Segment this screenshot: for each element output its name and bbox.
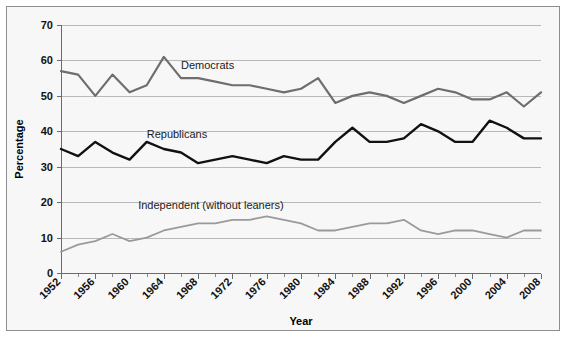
x-tick-label-1952: 1952	[37, 275, 63, 301]
y-tick-label-30: 30	[41, 161, 53, 173]
x-axis-title: Year	[289, 315, 313, 327]
series-line-0	[61, 57, 541, 107]
x-tick-label-1972: 1972	[208, 275, 234, 301]
series-line-1	[61, 121, 541, 164]
x-tick-label-1984: 1984	[311, 275, 337, 301]
y-tick-label-10: 10	[41, 232, 53, 244]
chart-plot-frame: 010203040506070 195219561960196419681972…	[6, 6, 560, 331]
series-label-1: Republicans	[147, 128, 208, 140]
x-tick-label-1976: 1976	[242, 275, 268, 301]
y-tick-label-70: 70	[41, 19, 53, 31]
gridlines	[61, 26, 541, 239]
x-tick-labels: 1952195619601964196819721976198019841988…	[37, 275, 543, 301]
x-tick-label-1988: 1988	[345, 275, 371, 301]
y-tick-label-50: 50	[41, 90, 53, 102]
series-line-2	[61, 216, 541, 251]
x-tick-label-1980: 1980	[277, 275, 303, 301]
series-lines	[61, 57, 541, 252]
y-tick-label-60: 60	[41, 54, 53, 66]
x-tick-label-1968: 1968	[174, 275, 200, 301]
y-tick-labels: 010203040506070	[41, 19, 53, 279]
x-tick-label-2008: 2008	[517, 275, 543, 301]
x-tick-label-2004: 2004	[482, 275, 508, 301]
series-label-2: Independent (without leaners)	[138, 199, 284, 211]
line-chart: 010203040506070 195219561960196419681972…	[7, 7, 561, 332]
x-tick-label-1964: 1964	[139, 275, 165, 301]
chart-figure: 010203040506070 195219561960196419681972…	[0, 0, 566, 337]
x-tick-label-1992: 1992	[379, 275, 405, 301]
axis-titles: YearPercentage	[13, 119, 313, 327]
x-tick-label-1960: 1960	[105, 275, 131, 301]
series-annotations: DemocratsRepublicansIndependent (without…	[138, 59, 284, 211]
series-label-0: Democrats	[181, 59, 235, 71]
y-tick-label-20: 20	[41, 196, 53, 208]
y-axis-title: Percentage	[13, 119, 25, 178]
x-tick-label-1956: 1956	[71, 275, 97, 301]
x-tick-label-2000: 2000	[448, 275, 474, 301]
y-tick-label-40: 40	[41, 125, 53, 137]
axes	[61, 25, 541, 274]
x-tick-label-1996: 1996	[414, 275, 440, 301]
